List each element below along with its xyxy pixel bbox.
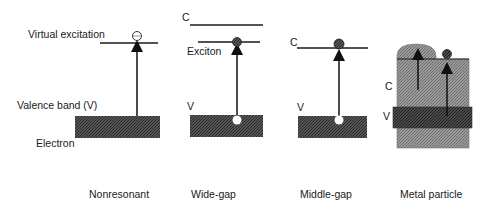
- panel-middle-gap: [297, 39, 368, 138]
- valence-band-block: [190, 115, 263, 137]
- hole-icon: [233, 116, 242, 125]
- electron-label: Electron: [36, 137, 75, 150]
- exciton-electron-icon: [233, 38, 242, 47]
- electron-icon: [443, 50, 452, 59]
- panel-nonresonant: [75, 32, 160, 139]
- exciton-label: Exciton: [187, 45, 221, 58]
- metal-c-label: C: [385, 80, 393, 93]
- caption-wide-gap: Wide-gap semiconductor microcrystallite: [191, 157, 260, 213]
- middle-gap-v-label: V: [297, 101, 304, 114]
- caption-metal: Metal particle: [400, 157, 462, 213]
- conduction-band-block: [397, 59, 469, 148]
- hole-icon: [335, 116, 344, 125]
- wide-gap-v-label: V: [187, 100, 194, 113]
- middle-gap-c-label: C: [290, 36, 298, 49]
- fermi-sea-dome: [397, 44, 436, 59]
- caption-nonresonant: Nonresonant nonlinearity: [89, 157, 149, 213]
- virtual-excitation-label: Virtual excitation: [28, 28, 105, 41]
- wide-gap-c-label: C: [182, 11, 190, 24]
- electron-icon: [334, 39, 344, 49]
- metal-v-label: V: [383, 110, 390, 123]
- valence-band-block: [298, 116, 367, 138]
- valence-band-label: Valence band (V): [17, 99, 97, 112]
- panel-wide-gap: [190, 25, 263, 137]
- panel-metal: [393, 44, 472, 148]
- valence-band-block: [393, 107, 472, 128]
- caption-middle-gap: Middle-gap semiconductor microcrystallit…: [300, 157, 369, 213]
- valence-band-block: [75, 116, 160, 138]
